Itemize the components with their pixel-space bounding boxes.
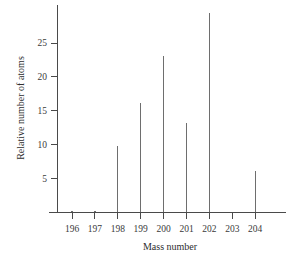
- mass-spectrum-chart: 510152025 196197198199200201202203204 Ma…: [0, 0, 299, 263]
- y-tick-label: 10: [38, 140, 48, 150]
- y-axis-ticks: 510152025: [38, 38, 58, 183]
- x-tick-label: 200: [156, 224, 171, 234]
- x-tick-label: 198: [111, 224, 126, 234]
- x-tick-label: 202: [202, 224, 217, 234]
- y-tick-label: 5: [42, 174, 47, 184]
- data-peaks: [72, 13, 255, 212]
- y-tick-label: 25: [38, 38, 48, 48]
- y-tick-label: 20: [38, 72, 48, 82]
- x-tick-label: 196: [65, 224, 80, 234]
- x-tick-label: 197: [88, 224, 103, 234]
- plot-area: 510152025 196197198199200201202203204 Ma…: [0, 0, 299, 263]
- y-axis-title: Relative number of atoms: [15, 56, 26, 160]
- x-tick-label: 199: [134, 224, 149, 234]
- x-axis-title: Mass number: [143, 241, 198, 252]
- y-tick-label: 15: [38, 106, 48, 116]
- x-axis-ticks: 196197198199200201202203204: [65, 213, 263, 235]
- x-tick-label: 204: [248, 224, 263, 234]
- chart-figure: 510152025 196197198199200201202203204 Ma…: [0, 0, 299, 263]
- x-tick-label: 201: [179, 224, 194, 234]
- x-tick-label: 203: [225, 224, 240, 234]
- axes: [49, 5, 286, 213]
